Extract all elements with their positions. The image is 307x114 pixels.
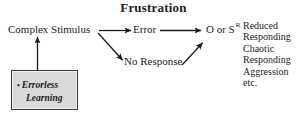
outcome-item: Chaotic	[243, 43, 274, 54]
outcome-item: Aggression	[243, 66, 289, 77]
errorless-line-1: Errorless	[22, 80, 58, 90]
outcome-symbol-base: O or S	[206, 23, 235, 35]
diagram-canvas: Frustration Complex Stimulus Error No Re…	[0, 0, 307, 114]
outcome-item: etc.	[243, 77, 257, 88]
outcome-symbol-superscript: R	[236, 21, 241, 29]
outcome-item: Responding	[243, 54, 291, 65]
outcome-item: Reduced	[243, 20, 278, 31]
arrow-stimulus-to-no-response	[98, 33, 123, 60]
errorless-line-2: Learning	[26, 92, 62, 104]
bullet-icon: •	[17, 81, 20, 90]
errorless-learning-box: •ErrorlessLearning	[11, 70, 78, 110]
arrow-no-response-to-outcome	[182, 43, 203, 65]
node-outcome-symbol: O or SR	[206, 23, 239, 35]
page-title: Frustration	[0, 1, 307, 14]
outcome-list: Reduced Responding Chaotic Responding Ag…	[243, 20, 305, 88]
node-error: Error	[133, 24, 156, 35]
node-complex-stimulus: Complex Stimulus	[8, 24, 90, 35]
errorless-learning-label: •ErrorlessLearning	[17, 79, 62, 104]
outcome-item: Responding	[243, 31, 291, 42]
node-no-response: No Response	[124, 56, 182, 67]
